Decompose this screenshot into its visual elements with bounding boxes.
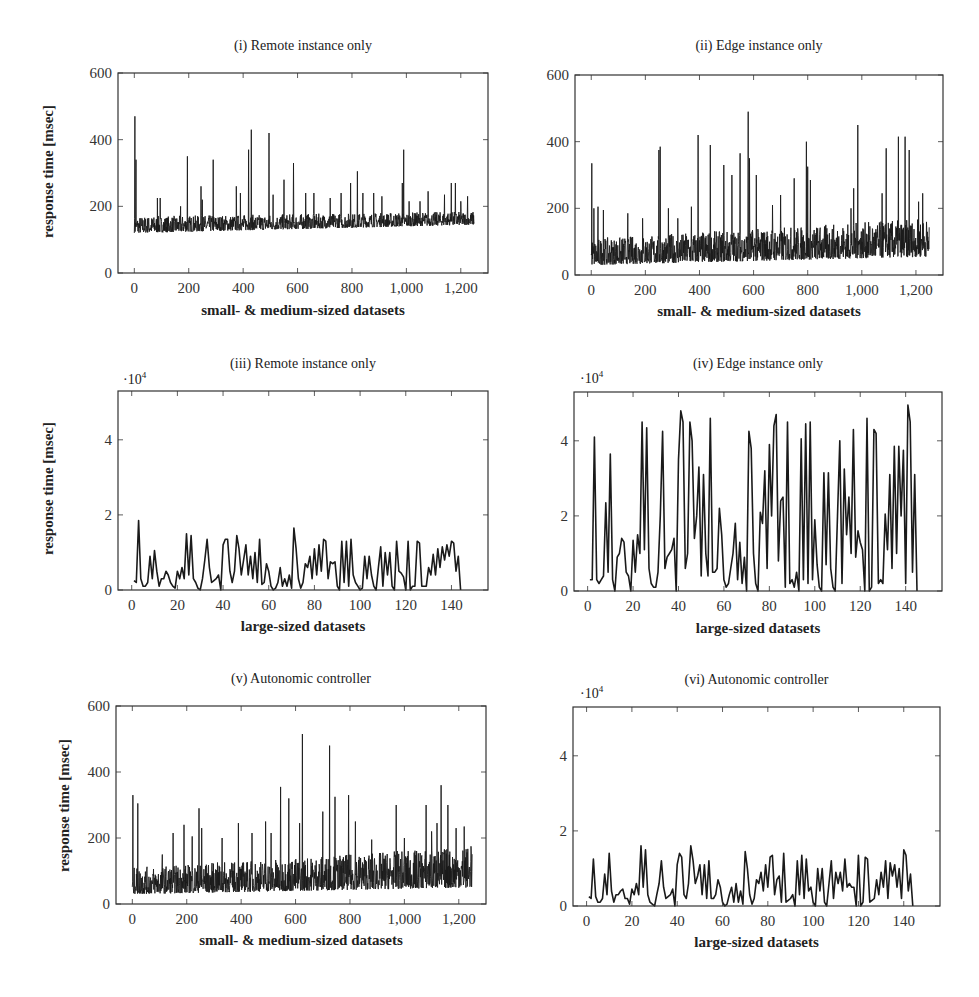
x-tick-label: 140 <box>894 598 917 614</box>
x-tick-label: 40 <box>671 598 686 614</box>
x-tick-label: 80 <box>762 598 777 614</box>
y-tick-label: 0 <box>105 582 113 598</box>
series-line <box>589 846 913 906</box>
x-tick-label: 0 <box>584 598 592 614</box>
series-line <box>591 112 929 265</box>
y-tick-label: 0 <box>103 896 111 912</box>
x-tick-label: 40 <box>670 913 685 929</box>
x-tick-label: 1,000 <box>390 280 424 296</box>
x-tick-label: 120 <box>395 597 418 613</box>
x-tick-label: 200 <box>177 280 200 296</box>
x-tick-label: 60 <box>261 597 276 613</box>
chart-iii: 020406080100120140024 <box>105 391 489 613</box>
y-tick-label: 200 <box>88 830 111 846</box>
plot-frame <box>118 73 488 273</box>
y-tick-label: 2 <box>560 823 568 839</box>
chart-i: 02004006008001,0001,2000200400600 <box>90 65 489 296</box>
x-tick-label: 0 <box>131 280 139 296</box>
y-tick-label: 200 <box>547 200 570 216</box>
x-tick-label: 1,200 <box>442 911 476 927</box>
x-tick-label: 200 <box>634 282 657 298</box>
y-tick-label: 0 <box>105 265 113 281</box>
series-line <box>132 734 472 894</box>
chart-iv: 020406080100120140024 <box>561 392 943 614</box>
x-tick-label: 800 <box>339 911 362 927</box>
x-tick-label: 600 <box>742 282 765 298</box>
plot-canvas: 02004006008001,0001,20002004006000200400… <box>0 0 979 997</box>
x-tick-label: 600 <box>286 280 309 296</box>
x-tick-label: 0 <box>129 911 137 927</box>
y-tick-label: 4 <box>560 748 568 764</box>
x-tick-label: 40 <box>216 597 231 613</box>
x-tick-label: 800 <box>796 282 819 298</box>
x-tick-label: 200 <box>175 911 198 927</box>
x-tick-label: 800 <box>341 280 364 296</box>
series-line <box>590 405 917 591</box>
chart-v: 02004006008001,0001,2000200400600 <box>88 698 487 927</box>
y-tick-label: 2 <box>105 507 113 523</box>
y-tick-label: 2 <box>561 508 569 524</box>
y-tick-label: 400 <box>88 764 111 780</box>
x-tick-label: 80 <box>307 597 322 613</box>
x-tick-label: 100 <box>349 597 372 613</box>
x-tick-label: 400 <box>232 280 255 296</box>
y-tick-label: 0 <box>561 583 569 599</box>
y-tick-label: 4 <box>105 432 113 448</box>
x-tick-label: 1,200 <box>899 282 933 298</box>
x-tick-label: 140 <box>440 597 463 613</box>
y-tick-label: 200 <box>90 198 113 214</box>
x-tick-label: 0 <box>587 282 595 298</box>
series-line <box>134 521 461 591</box>
y-tick-label: 600 <box>88 698 111 714</box>
x-tick-label: 100 <box>802 913 825 929</box>
series-line <box>134 116 474 233</box>
x-tick-label: 120 <box>847 913 870 929</box>
y-tick-label: 400 <box>547 134 570 150</box>
x-tick-label: 60 <box>716 598 731 614</box>
x-tick-label: 140 <box>893 913 916 929</box>
y-tick-label: 4 <box>561 433 569 449</box>
chart-ii: 02004006008001,0001,2000200400600 <box>547 67 944 298</box>
y-tick-label: 400 <box>90 132 113 148</box>
x-tick-label: 1,200 <box>444 280 478 296</box>
x-tick-label: 20 <box>626 598 641 614</box>
x-tick-label: 0 <box>583 913 591 929</box>
x-tick-label: 1,000 <box>845 282 879 298</box>
x-tick-label: 0 <box>128 597 136 613</box>
x-tick-label: 20 <box>170 597 185 613</box>
x-tick-label: 120 <box>849 598 872 614</box>
chart-vi: 020406080100120140024 <box>560 707 941 929</box>
x-tick-label: 600 <box>284 911 307 927</box>
x-tick-label: 60 <box>715 913 730 929</box>
y-tick-label: 0 <box>560 898 568 914</box>
x-tick-label: 1,000 <box>388 911 422 927</box>
x-tick-label: 100 <box>804 598 827 614</box>
y-tick-label: 0 <box>562 267 570 283</box>
plot-frame <box>574 392 942 591</box>
x-tick-label: 20 <box>624 913 639 929</box>
y-tick-label: 600 <box>547 67 570 83</box>
x-tick-label: 80 <box>760 913 775 929</box>
y-tick-label: 600 <box>90 65 113 81</box>
x-tick-label: 400 <box>230 911 253 927</box>
x-tick-label: 400 <box>688 282 711 298</box>
